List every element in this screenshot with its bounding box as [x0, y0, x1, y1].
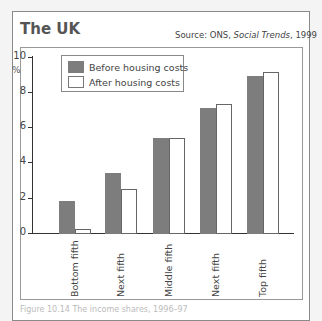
legend-swatch-before [68, 61, 84, 73]
y-tick-label: 6 [6, 120, 26, 131]
bar-before-housing [105, 173, 121, 234]
bar-after-housing [263, 72, 279, 234]
bar-after-housing [169, 138, 185, 234]
source-suffix: , 1999 [290, 30, 317, 40]
legend: Before housing costs After housing costs [61, 55, 184, 92]
category-label: Middle fifth [163, 244, 174, 297]
source-italic: Social Trends [234, 30, 290, 40]
legend-swatch-after [68, 76, 84, 88]
bar-before-housing [59, 201, 75, 234]
bar-before-housing [200, 108, 216, 234]
y-tick-label: 8 [6, 85, 26, 96]
y-axis [32, 56, 33, 233]
chart-source: Source: ONS, Social Trends, 1999 [175, 30, 317, 40]
y-tick-label: 10 [6, 50, 26, 61]
category-label: Next fifth [115, 253, 126, 297]
y-tick-label: 2 [6, 191, 26, 202]
bar-after-housing [75, 229, 91, 234]
legend-item-before: Before housing costs [68, 61, 188, 73]
y-axis-label: % [12, 65, 21, 75]
figure-caption: Figure 10.14 The income shares, 1996–97 [20, 305, 188, 314]
source-prefix: Source: ONS, [175, 30, 234, 40]
bar-after-housing [121, 189, 137, 234]
bar-before-housing [153, 138, 169, 234]
legend-label-after: After housing costs [89, 77, 180, 88]
category-label: Bottom fifth [69, 240, 80, 297]
legend-item-after: After housing costs [68, 76, 180, 88]
chart-title: The UK [20, 20, 80, 38]
bar-after-housing [216, 104, 232, 234]
y-tick-label: 4 [6, 155, 26, 166]
y-tick-label: 0 [6, 226, 26, 237]
bar-before-housing [247, 76, 263, 234]
legend-label-before: Before housing costs [89, 62, 188, 73]
category-label: Top fifth [257, 259, 268, 297]
category-label: Next fifth [210, 253, 221, 297]
